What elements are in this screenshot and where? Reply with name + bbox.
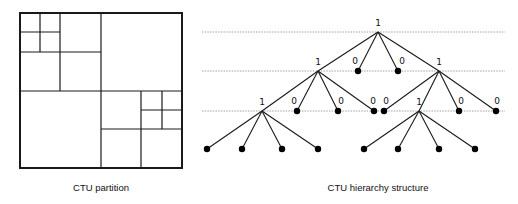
tree-edge <box>419 111 475 149</box>
tree-edge <box>318 71 374 111</box>
node-split-flag-label: 0 <box>338 96 344 106</box>
tree-nodes: 1100110000100 <box>204 18 500 152</box>
tree-edge <box>378 32 439 71</box>
leaf-node-dot <box>204 146 210 152</box>
ctu-partition-figure <box>20 13 182 168</box>
node-split-flag-label: 0 <box>383 96 389 106</box>
tree-edge <box>318 32 378 71</box>
node-split-flag-label: 1 <box>436 57 442 67</box>
node-split-flag-label: 1 <box>375 18 381 28</box>
tree-edge <box>242 111 262 149</box>
leaf-node-dot <box>355 68 361 74</box>
ctu-diagram: 1100110000100 CTU partition CTU hierarch… <box>0 0 518 204</box>
tree-edge <box>318 71 338 111</box>
leaf-node-dot <box>395 146 401 152</box>
tree-edge <box>384 71 439 111</box>
leaf-node-dot <box>456 108 462 114</box>
caption-ctu-hierarchy: CTU hierarchy structure <box>328 182 429 193</box>
tree-edge <box>262 111 282 149</box>
node-split-flag-label: 0 <box>458 96 464 106</box>
leaf-node-dot <box>381 108 387 114</box>
leaf-node-dot <box>279 146 285 152</box>
tree-edge <box>207 111 262 149</box>
leaf-node-dot <box>472 146 478 152</box>
tree-edge <box>419 111 439 149</box>
leaf-node-dot <box>361 146 367 152</box>
leaf-node-dot <box>294 108 300 114</box>
tree-edge <box>398 111 419 149</box>
leaf-node-dot <box>315 146 321 152</box>
ctu-hierarchy-tree: 1100110000100 <box>202 18 505 152</box>
tree-edges <box>207 32 496 149</box>
leaf-node-dot <box>493 108 499 114</box>
tree-edge <box>364 111 419 149</box>
leaf-node-dot <box>436 146 442 152</box>
node-split-flag-label: 1 <box>416 97 422 107</box>
tree-edge <box>439 71 459 111</box>
node-split-flag-label: 1 <box>259 97 265 107</box>
node-split-flag-label: 0 <box>352 56 358 66</box>
leaf-node-dot <box>335 108 341 114</box>
tree-edge <box>297 71 318 111</box>
node-split-flag-label: 0 <box>494 96 500 106</box>
node-split-flag-label: 1 <box>315 57 321 67</box>
leaf-node-dot <box>371 108 377 114</box>
tree-edge <box>262 71 318 111</box>
tree-edge <box>262 111 318 149</box>
tree-edge <box>439 71 496 111</box>
tree-edge <box>419 71 439 111</box>
leaf-node-dot <box>239 146 245 152</box>
node-split-flag-label: 0 <box>370 96 376 106</box>
caption-ctu-partition: CTU partition <box>73 182 129 193</box>
node-split-flag-label: 0 <box>291 96 297 106</box>
node-split-flag-label: 0 <box>399 56 405 66</box>
leaf-node-dot <box>395 68 401 74</box>
